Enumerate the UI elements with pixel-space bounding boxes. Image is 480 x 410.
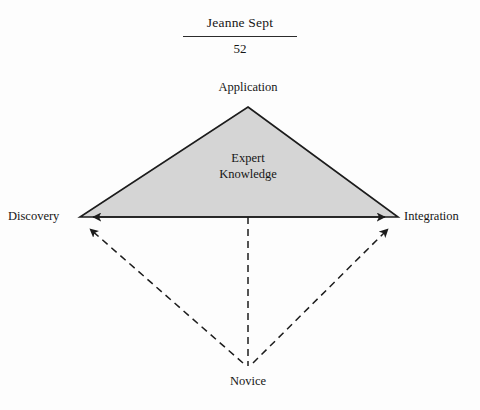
novice-to-integration-arrow	[253, 229, 388, 363]
diagram-svg	[0, 0, 480, 410]
expert-knowledge-diagram: Application Discovery Integration Novice…	[0, 0, 480, 410]
label-application: Application	[0, 80, 480, 95]
novice-to-discovery-arrow	[90, 229, 243, 363]
label-discovery: Discovery	[8, 209, 59, 224]
label-novice: Novice	[0, 374, 480, 389]
label-integration: Integration	[404, 209, 459, 224]
label-expert-knowledge-line2: Knowledge	[0, 166, 480, 182]
page-canvas: Jeanne Sept 52	[0, 0, 480, 410]
label-expert-knowledge: Expert Knowledge	[0, 150, 480, 182]
label-expert-knowledge-line1: Expert	[0, 150, 480, 166]
